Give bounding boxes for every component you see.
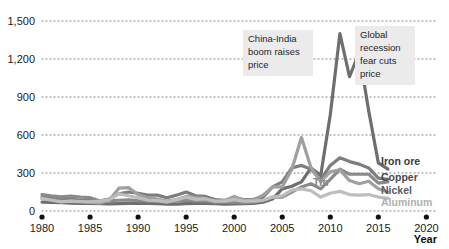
x-axis-tick-label: 1980 (30, 222, 54, 234)
y-axis-labels-group: 03006009001,2001,500 (7, 15, 35, 217)
x-axis-tick-label: 2000 (222, 222, 246, 234)
annotation-global-recession-line: fear cuts (360, 55, 397, 66)
x-axis-tick-dot (328, 214, 333, 219)
x-axis-tick-label: 1985 (78, 222, 102, 234)
x-axis-tick-label: 1990 (126, 222, 150, 234)
series-label-iron-ore: Iron ore (381, 155, 420, 167)
y-axis-tick-label: 600 (17, 129, 35, 141)
x-axis-tick-label: 2010 (318, 222, 342, 234)
series-line-copper (42, 158, 388, 201)
annotations-group: China-Indiaboom raisespriceGlobalrecessi… (243, 26, 415, 85)
x-axis-labels-group: 198019851990199520002005201020152020 (30, 222, 439, 234)
x-axis-tick-dot (376, 214, 381, 219)
x-axis-tick-dot (39, 214, 44, 219)
inline-labels-group: Tin (313, 176, 329, 188)
x-axis-tick-dot (184, 214, 189, 219)
chart-container: 03006009001,2001,500 1980198519901995200… (0, 0, 449, 249)
annotation-global-recession-line: recession (360, 42, 401, 53)
x-axis-tick-dot (424, 214, 429, 219)
annotation-global-recession-line: price (360, 68, 381, 79)
x-axis-tick-dot (135, 214, 140, 219)
commodity-price-line-chart: 03006009001,2001,500 1980198519901995200… (0, 0, 449, 249)
x-axis-tick-label: 1995 (174, 222, 198, 234)
annotation-global-recession-line: Global (360, 29, 387, 40)
annotation-china-india-line: boom raises (248, 46, 300, 57)
series-line-tin (42, 169, 388, 203)
x-axis-tick-dot (87, 214, 92, 219)
y-axis-tick-label: 900 (17, 91, 35, 103)
x-axis-tick-dot (232, 214, 237, 219)
series-label-nickel: Nickel (381, 184, 412, 196)
y-axis-tick-label: 300 (17, 167, 35, 179)
series-label-copper: Copper (381, 171, 418, 183)
x-axis-tick-dot (280, 214, 285, 219)
annotation-china-india-line: China-India (248, 33, 297, 44)
series-labels-group: Iron oreCopperNickelAluminum (381, 155, 432, 208)
y-axis-tick-label: 1,500 (7, 15, 35, 27)
x-axis-tick-label: 2015 (366, 222, 390, 234)
y-axis-tick-label: 0 (29, 205, 35, 217)
series-label-tin: Tin (313, 176, 329, 188)
x-axis-tick-label: 2005 (270, 222, 294, 234)
x-axis-tick-dots-group (39, 214, 429, 219)
series-label-aluminum: Aluminum (381, 196, 432, 208)
y-axis-tick-label: 1,200 (7, 53, 35, 65)
x-axis-title: Year (414, 233, 438, 245)
annotation-china-india-line: price (248, 59, 269, 70)
